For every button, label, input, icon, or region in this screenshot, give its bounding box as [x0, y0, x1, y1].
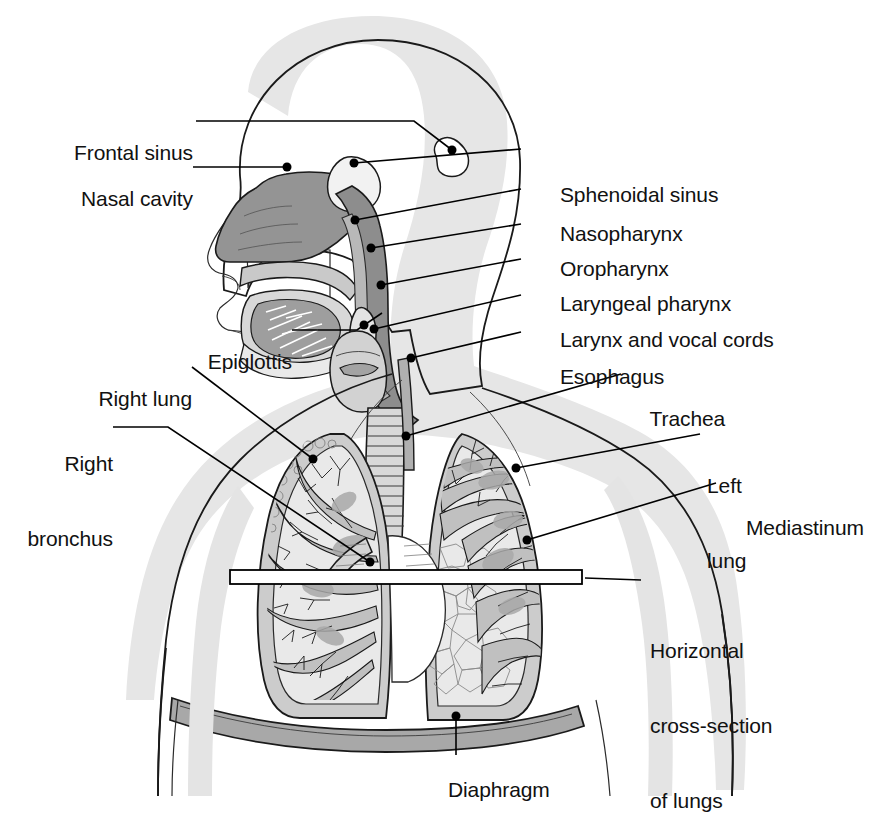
label-epiglottis-text: Epiglottis [208, 350, 292, 373]
cross-section-bar [230, 570, 582, 584]
label-right-bronchus-line1: Right [0, 451, 113, 476]
label-nasal-cavity: Nasal cavity [0, 161, 193, 236]
label-cross-section-line3: of lungs [650, 788, 772, 813]
label-horizontal-cross-section: Horizontal cross-section of lungs [650, 588, 772, 816]
label-right-bronchus-line2: bronchus [0, 526, 113, 551]
label-mediastinum: Mediastinum [723, 490, 864, 565]
label-cross-section-line2: cross-section [650, 713, 772, 738]
label-diaphragm-text: Diaphragm [448, 778, 550, 801]
leader-frontal-sinus [196, 121, 452, 150]
label-mediastinum-text: Mediastinum [746, 516, 864, 539]
leader-cross-section [585, 578, 641, 580]
label-diaphragm: Diaphragm [425, 752, 550, 816]
larynx-vocal-cords [330, 331, 387, 412]
label-right-bronchus: Right bronchus [0, 401, 113, 601]
label-cross-section-line1: Horizontal [650, 638, 772, 663]
label-nasal-cavity-text: Nasal cavity [81, 187, 193, 210]
